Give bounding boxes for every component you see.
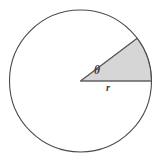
- radius-label: r: [106, 83, 110, 94]
- shaded-sector: [81, 38, 152, 81]
- figure-canvas: [0, 0, 163, 161]
- circle-sector-figure: θ r: [0, 0, 163, 161]
- theta-label: θ: [94, 65, 100, 77]
